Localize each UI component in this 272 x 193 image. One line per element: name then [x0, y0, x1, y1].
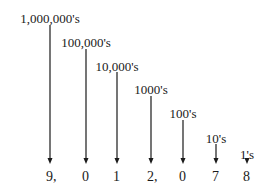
digit-hundreds: 0 — [179, 170, 186, 184]
label-thousands: 1000's — [134, 83, 167, 96]
digit-hundred-thousands: 0 — [82, 170, 89, 184]
digit-ten-thousands: 1 — [113, 170, 120, 184]
arrowhead-icon — [214, 158, 219, 164]
digit-ones: 8 — [243, 170, 250, 184]
arrowhead-icon — [84, 158, 89, 164]
arrowhead-icon — [48, 158, 53, 164]
label-hundred-thousands: 100,000's — [61, 36, 111, 49]
digit-thousands: 2, — [147, 170, 158, 184]
arrowhead-icon — [149, 158, 154, 164]
arrowhead-icon — [181, 158, 186, 164]
arrowhead-icon — [115, 158, 120, 164]
digit-millions: 9, — [46, 170, 57, 184]
place-value-diagram: 1,000,000's 100,000's 10,000's 1000's 10… — [0, 0, 272, 193]
label-millions: 1,000,000's — [20, 12, 79, 25]
label-tens: 10's — [206, 132, 226, 145]
label-ones: 1's — [240, 148, 254, 161]
label-ten-thousands: 10,000's — [95, 60, 138, 73]
digit-tens: 7 — [212, 170, 219, 184]
label-hundreds: 100's — [170, 107, 197, 120]
